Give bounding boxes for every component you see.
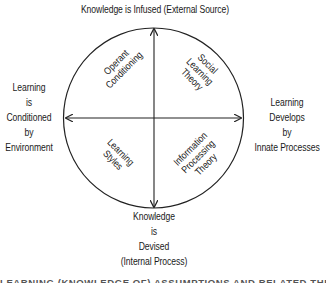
figure-caption-cutoff: LEARNING (KNOWLEDGE OF) ASSUMPTIONS AND … — [0, 276, 326, 283]
axis-label-bottom: Knowledge is Devised (Internal Process) — [113, 209, 195, 269]
axis-label-right: Learning Develops by Innate Processes — [253, 95, 320, 155]
axis-label-left: Learning is Conditioned by Environment — [5, 80, 53, 155]
axis-label-top: Knowledge is Infused (External Source) — [61, 2, 250, 17]
